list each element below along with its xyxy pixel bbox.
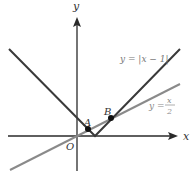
fraction-denominator: 2 xyxy=(166,107,172,116)
point-a-label: A xyxy=(83,117,91,128)
x-axis-label: x xyxy=(183,130,190,143)
point-b-label: B xyxy=(103,106,111,117)
svg-text:y =: y = xyxy=(148,101,165,111)
graph-diagram: y x O A B y = |x − 1| y = x 2 xyxy=(0,0,195,176)
origin-label: O xyxy=(66,141,74,152)
line-half-x xyxy=(10,84,180,170)
fraction-numerator: x xyxy=(167,96,172,105)
y-axis-label: y xyxy=(72,0,80,13)
abs-curve-label: y = |x − 1| xyxy=(119,54,168,65)
